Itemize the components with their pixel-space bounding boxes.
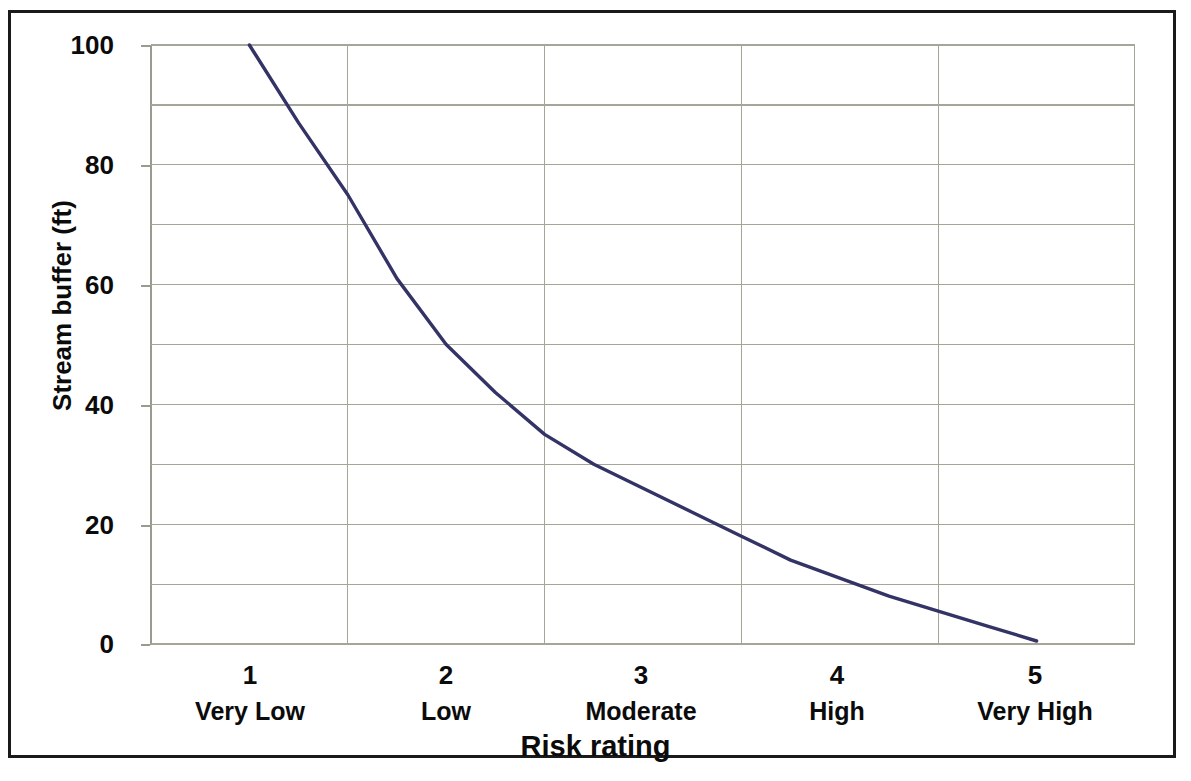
- y-tick-mark-40: [141, 405, 150, 407]
- x-category-label-high: High: [722, 697, 952, 726]
- plot-svg: [151, 45, 1135, 644]
- y-tick-label-0: 0: [30, 629, 114, 660]
- y-tick-label-20: 20: [30, 510, 114, 541]
- x-tick-label-5: 5: [935, 660, 1135, 691]
- y-tick-mark-20: [141, 525, 150, 527]
- y-tick-label-80: 80: [30, 150, 114, 181]
- y-tick-mark-80: [141, 165, 150, 167]
- x-axis-title: Risk rating: [0, 730, 1191, 763]
- y-tick-label-100: 100: [30, 30, 114, 61]
- x-tick-label-4: 4: [737, 660, 937, 691]
- plot-area: [151, 45, 1135, 644]
- y-tick-label-40: 40: [30, 390, 114, 421]
- x-tick-label-1: 1: [150, 660, 350, 691]
- x-category-label-very-high: Very High: [920, 697, 1150, 726]
- y-tick-mark-100: [141, 45, 150, 47]
- y-tick-label-60: 60: [30, 270, 114, 301]
- data-series-line: [249, 45, 1036, 641]
- stream-buffer-risk-rating-chart: Stream buffer (ft) 100 80 60 40 20 0: [0, 0, 1191, 781]
- horizontal-gridlines: [151, 45, 1135, 644]
- y-tick-mark-60: [141, 285, 150, 287]
- y-tick-mark-0: [141, 644, 150, 646]
- x-tick-label-2: 2: [346, 660, 546, 691]
- x-tick-label-3: 3: [541, 660, 741, 691]
